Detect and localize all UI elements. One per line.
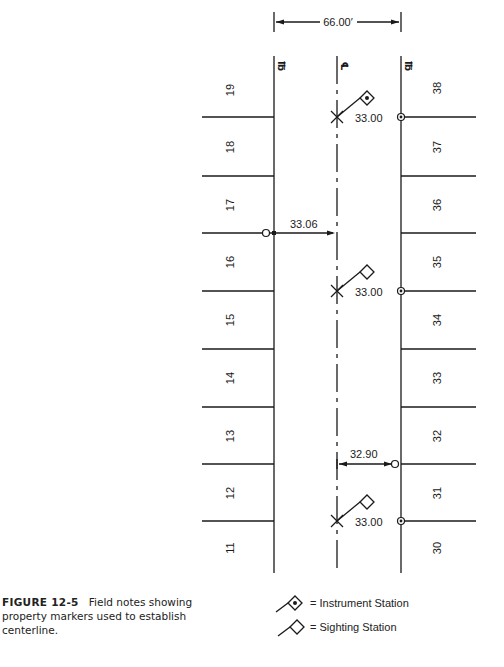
svg-text:37: 37 [431, 141, 443, 153]
svg-text:32: 32 [431, 430, 443, 442]
svg-text:31: 31 [431, 487, 443, 499]
left-pl-symbol: ℔ [276, 61, 287, 71]
field-notes-diagram: 66.00′ 33.06 32.90 33.00 33.00 33.00 ℔ ℄… [0, 0, 504, 667]
svg-text:18: 18 [224, 141, 236, 153]
svg-text:35: 35 [431, 256, 443, 268]
figure-caption: FIGURE 12-5 Field notes showing property… [2, 595, 202, 637]
svg-text:17: 17 [224, 199, 236, 211]
svg-text:16: 16 [224, 256, 236, 268]
row-width-label: 66.00′ [323, 16, 353, 28]
station-2-offset: 33.00 [355, 286, 383, 298]
svg-text:12: 12 [224, 487, 236, 499]
legend-sighting-icon [278, 620, 304, 636]
svg-text:36: 36 [431, 199, 443, 211]
right-offset-label: 32.90 [350, 448, 378, 460]
svg-text:38: 38 [431, 82, 443, 94]
left-lots: 19 18 17 16 15 14 13 12 11 [224, 84, 236, 554]
svg-text:15: 15 [224, 314, 236, 326]
station-1-offset: 33.00 [355, 112, 383, 124]
legend-sighting-label: = Sighting Station [310, 621, 397, 633]
svg-text:19: 19 [224, 84, 236, 96]
legend-instrument-icon [276, 596, 302, 612]
svg-text:11: 11 [224, 542, 236, 553]
right-lots: 38 37 36 35 34 33 32 31 30 [431, 82, 443, 554]
legend-instrument-label: = Instrument Station [310, 597, 409, 609]
svg-text:30: 30 [431, 542, 443, 554]
left-offset-label: 33.06 [290, 218, 318, 230]
station-3-offset: 33.00 [355, 516, 383, 528]
right-pl-symbol: ℔ [403, 61, 414, 71]
property-markers [263, 114, 405, 525]
svg-text:34: 34 [431, 314, 443, 326]
marker-circle-icon [263, 230, 270, 237]
figure-label: FIGURE 12-5 [2, 596, 79, 608]
centerline-symbol: ℄ [339, 62, 350, 71]
svg-text:14: 14 [224, 372, 236, 384]
svg-text:33: 33 [431, 372, 443, 384]
svg-text:13: 13 [224, 430, 236, 442]
marker-circle-icon [392, 461, 399, 468]
